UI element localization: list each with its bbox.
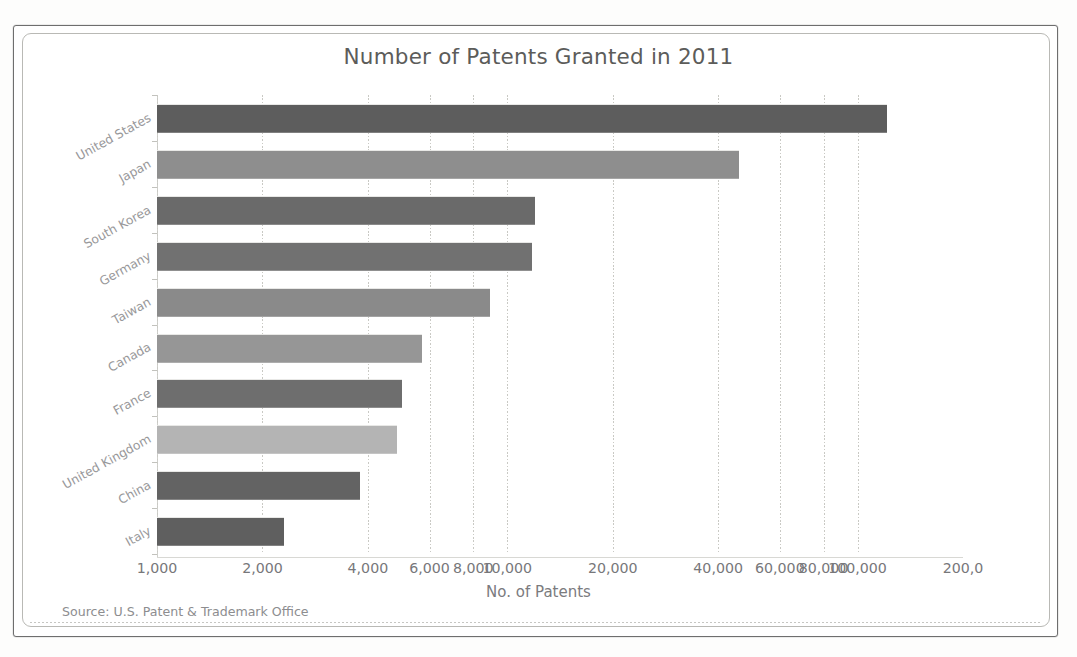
- x-tick-label: 40,000: [693, 560, 743, 576]
- bar-row: [157, 462, 963, 508]
- y-tickmark: [152, 416, 157, 417]
- bar: [157, 334, 422, 363]
- bar: [157, 517, 284, 546]
- plot-right-clip: [963, 95, 977, 558]
- bar: [157, 242, 532, 271]
- bar: [157, 150, 739, 179]
- bar: [157, 288, 490, 317]
- bar: [157, 425, 397, 454]
- chart-title: Number of Patents Granted in 2011: [0, 44, 1077, 69]
- bar-row: [157, 325, 963, 371]
- y-tickmark: [152, 279, 157, 280]
- bar-row: [157, 187, 963, 233]
- y-tickmark: [152, 462, 157, 463]
- x-tick-label: 4,000: [348, 560, 389, 576]
- x-tick-label: 2,000: [242, 560, 283, 576]
- x-tick-label: 20,000: [588, 560, 638, 576]
- plot-area: [157, 95, 963, 554]
- x-tick-label: 200,0: [943, 560, 984, 576]
- y-tickmark: [152, 141, 157, 142]
- bar-row: [157, 141, 963, 187]
- y-tickmark: [152, 554, 157, 555]
- y-tickmark: [152, 508, 157, 509]
- bar: [157, 196, 535, 225]
- y-tickmark: [152, 95, 157, 96]
- bar: [157, 379, 402, 408]
- chart-page: Number of Patents Granted in 2011 United…: [0, 0, 1077, 657]
- bar-row: [157, 370, 963, 416]
- x-axis-title: No. of Patents: [0, 583, 1077, 601]
- bar-row: [157, 416, 963, 462]
- bar-row: [157, 508, 963, 554]
- x-tick-label: 10,000: [482, 560, 532, 576]
- source-divider: [30, 622, 1042, 623]
- y-tickmark: [152, 325, 157, 326]
- bar-row: [157, 233, 963, 279]
- x-tick-label: 1,000: [137, 560, 178, 576]
- source-note: Source: U.S. Patent & Trademark Office: [62, 604, 309, 619]
- bar-row: [157, 279, 963, 325]
- y-tickmark: [152, 187, 157, 188]
- x-axis-line: [157, 557, 963, 558]
- y-tickmark: [152, 233, 157, 234]
- bar: [157, 471, 360, 500]
- y-tickmark: [152, 370, 157, 371]
- bar: [157, 104, 887, 133]
- x-tick-label: 100,000: [828, 560, 887, 576]
- x-tick-label: 60,000: [755, 560, 805, 576]
- bar-row: [157, 95, 963, 141]
- x-tick-label: 6,000: [409, 560, 450, 576]
